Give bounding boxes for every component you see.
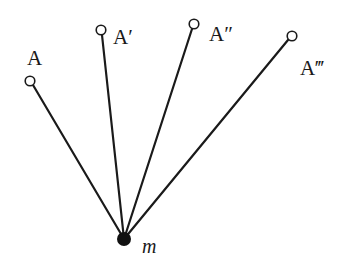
label-m: m	[142, 235, 156, 257]
point-A-prime-circle-icon	[96, 25, 106, 35]
label-A: A	[27, 46, 43, 70]
lines	[33, 29, 288, 239]
label-A-triple-prime: A‴	[300, 56, 324, 80]
line-m-A-double-prime	[124, 29, 192, 239]
point-A-triple-prime-circle-icon	[287, 31, 297, 41]
endpoints	[25, 19, 297, 86]
label-A-double-prime: A″	[209, 22, 233, 46]
pivot-mass-icon	[117, 232, 131, 246]
point-A-circle-icon	[25, 76, 35, 86]
point-A-double-prime-circle-icon	[189, 19, 199, 29]
line-m-A-triple-prime	[124, 40, 288, 239]
label-A-prime: A′	[113, 25, 133, 49]
pendulum-diagram: A A′ A″ A‴ m	[0, 0, 347, 265]
